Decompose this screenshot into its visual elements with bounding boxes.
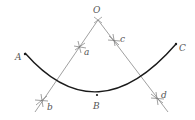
label-b: b xyxy=(47,102,53,112)
arc-ABC xyxy=(25,44,176,92)
label-A: A xyxy=(14,52,22,62)
cross-mark-O xyxy=(94,17,102,23)
label-C: C xyxy=(179,43,186,53)
point-A-dot xyxy=(24,53,26,55)
geometric-construction-diagram: O A B C a b c d xyxy=(0,0,195,120)
label-B: B xyxy=(92,101,100,111)
label-O: O xyxy=(93,5,101,15)
label-a: a xyxy=(84,47,89,57)
label-c: c xyxy=(120,34,125,44)
point-B-dot xyxy=(96,94,98,96)
point-C-dot xyxy=(175,43,177,45)
label-d: d xyxy=(161,90,167,100)
